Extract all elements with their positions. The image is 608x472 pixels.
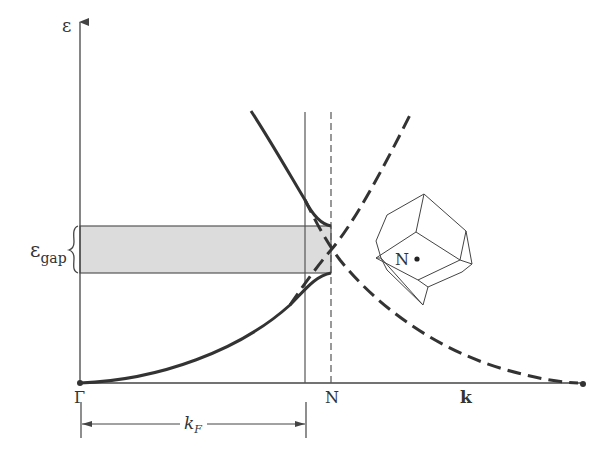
kf-label: kF (184, 413, 202, 436)
gap-label: εgap (30, 238, 67, 266)
lower-band-curve (80, 273, 331, 383)
upper-band-curve (251, 111, 331, 226)
energy-gap-band (80, 226, 331, 273)
brillouin-zone-polyhedron (376, 194, 472, 305)
gap-brace (69, 226, 78, 273)
inset-n-point (414, 256, 419, 261)
inset-n-label: N (395, 250, 409, 269)
k-axis-end-point (580, 381, 586, 387)
n-label: N (325, 388, 339, 407)
energy-axis-label: ε (62, 15, 71, 36)
band-gap-diagram: ε N εgap Γ N k kF (0, 0, 608, 472)
gamma-label: Γ (74, 388, 85, 407)
k-axis-title: k (460, 387, 473, 407)
